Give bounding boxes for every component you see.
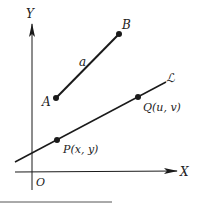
x-axis <box>15 171 177 172</box>
x-axis-label: X <box>179 165 189 179</box>
segment-label: a <box>79 55 86 69</box>
point-a-label: A <box>41 95 51 109</box>
point-q-label: Q(u, v) <box>143 101 181 114</box>
point-p-label: P(x, y) <box>62 143 98 156</box>
point-a <box>53 95 59 101</box>
point-q <box>135 94 141 100</box>
origin-label: O <box>36 176 45 189</box>
line-l-label: ℒ <box>166 71 175 85</box>
diagram-canvas: Y X O A B a P(x, y) Q(u, v) ℒ <box>0 0 197 205</box>
point-p <box>54 137 60 143</box>
y-axis-label: Y <box>26 7 35 21</box>
point-b-label: B <box>121 18 131 32</box>
segment-ab <box>56 34 119 98</box>
